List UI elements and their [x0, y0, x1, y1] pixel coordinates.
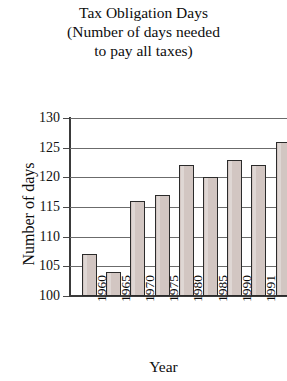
bar-highlight	[84, 255, 87, 295]
x-axis-tick-label: 1990	[240, 250, 254, 302]
bar-highlight	[205, 178, 208, 295]
gridline	[70, 148, 287, 149]
x-axis-tick-label: 1980	[191, 250, 205, 302]
x-axis-tick-label: 1965	[119, 250, 133, 302]
y-axis-tick-label: 130	[26, 111, 60, 125]
y-axis-tick-label: 105	[26, 259, 60, 273]
x-axis-tick-labels: 196019651970197519801985199019911992	[70, 300, 287, 356]
bar-highlight	[157, 196, 160, 295]
gridline	[70, 118, 287, 119]
y-axis-tick-label: 110	[26, 230, 60, 244]
y-axis-tick-label: 100	[26, 289, 60, 303]
bar-highlight	[278, 143, 281, 295]
y-axis-tick-label: 120	[26, 170, 60, 184]
x-axis-tick-label: 1970	[143, 250, 157, 302]
x-axis-tick-label: 1975	[167, 250, 181, 302]
x-axis-tick-label: 1985	[216, 250, 230, 302]
x-axis-tick-label: 1991	[264, 250, 278, 302]
y-axis-tick-label: 125	[26, 141, 60, 155]
y-axis-tick-labels: 130125120115110105100	[24, 0, 60, 381]
x-axis-tick-label: 1960	[95, 250, 109, 302]
y-axis-tick-label: 115	[26, 200, 60, 214]
x-axis-label: Year	[0, 358, 287, 376]
bar-highlight	[181, 166, 184, 295]
